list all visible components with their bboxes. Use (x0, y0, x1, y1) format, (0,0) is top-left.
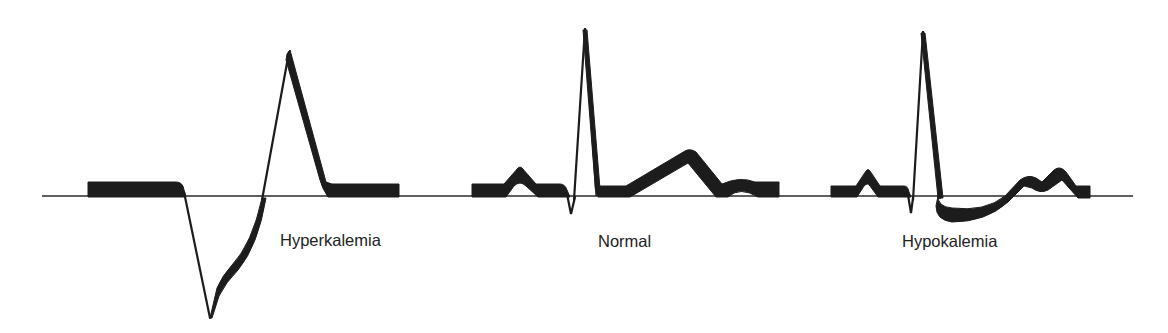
hypokalemia-st-depression-t-u-wave (936, 168, 1090, 222)
normal-r-wave-fill (583, 30, 600, 196)
ecg-potassium-diagram: Hyperkalemia Normal Hypokalemia (0, 0, 1168, 333)
hyperkalemia-peaked-t-wave (286, 50, 399, 197)
hyperkalemia-pr-segment (88, 182, 186, 197)
hyperkalemia-t-upstroke (262, 52, 289, 200)
hypokalemia-p-wave (831, 170, 911, 198)
label-hyperkalemia: Hyperkalemia (280, 231, 382, 249)
waveform-normal (472, 28, 779, 214)
waveform-hyperkalemia (88, 50, 399, 318)
normal-p-wave (472, 167, 570, 197)
hypokalemia-r-wave-fill (921, 33, 943, 198)
normal-t-wave (596, 150, 779, 197)
label-hypokalemia: Hypokalemia (902, 232, 998, 250)
hyperkalemia-s-upstroke (210, 198, 266, 318)
label-normal: Normal (598, 232, 651, 250)
hyperkalemia-s-downstroke (184, 192, 210, 318)
waveform-hypokalemia (831, 31, 1090, 222)
